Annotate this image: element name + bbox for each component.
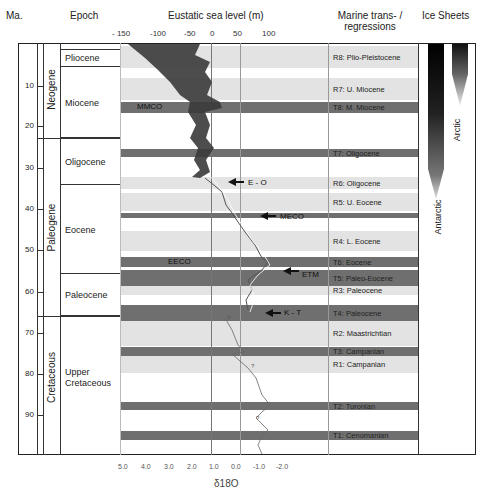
arctic-label: Arctic (452, 115, 462, 145)
d18o-tick: 0.0 (231, 463, 241, 470)
antarctic-ice-bar (428, 44, 444, 199)
event-mmco: MMCO (137, 102, 162, 111)
svg-text:?: ? (256, 415, 260, 421)
sea-level-curve: ? ? ? (0, 0, 489, 499)
d18o-tick: -2.0 (276, 463, 288, 470)
d18o-tick: 2.0 (187, 463, 197, 470)
event-eeco: EECO (168, 257, 191, 266)
d18o-tick: 3.0 (164, 463, 174, 470)
arctic-ice-bar (452, 44, 468, 106)
event-kt: K - T (284, 308, 301, 317)
d18o-tick: 5.0 (118, 463, 128, 470)
d18o-axis-label: δ18O (214, 478, 238, 489)
svg-text:?: ? (251, 363, 255, 369)
event-eo: E - O (248, 178, 267, 187)
d18o-tick: 1.0 (209, 463, 219, 470)
d18o-tick: -1.0 (253, 463, 265, 470)
event-etm: ETM (302, 270, 319, 279)
d18o-tick: 4.0 (141, 463, 151, 470)
antarctic-label: Antarctic (433, 197, 443, 237)
svg-text:?: ? (227, 315, 231, 321)
ice-sheets-graphic (418, 44, 476, 274)
event-meco: MECO (280, 212, 304, 221)
